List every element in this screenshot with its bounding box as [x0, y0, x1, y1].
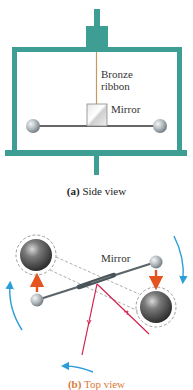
top-view-caption: (b) Top view: [0, 378, 193, 390]
small-ball-right-top: [150, 256, 163, 269]
caption-letter-b: (b): [68, 378, 81, 390]
rotation-arrow-bottom: [65, 366, 93, 372]
rotation-arrow-left: [10, 285, 22, 330]
big-ball-left: [20, 239, 52, 271]
top-mirror-label: Mirror: [101, 252, 130, 264]
reflected-ray: [82, 284, 97, 355]
big-ball-right: [140, 291, 172, 323]
rotation-arrow-right: [174, 236, 183, 280]
small-ball-left-top: [31, 294, 44, 307]
caption-text-b: Top view: [81, 378, 125, 390]
